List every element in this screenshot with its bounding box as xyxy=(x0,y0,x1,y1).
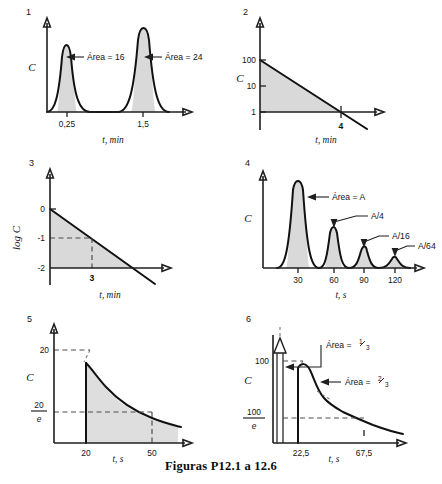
panel-3-xtick-label-3: 3 xyxy=(90,273,95,283)
panel-5-number: 5 xyxy=(27,314,32,324)
panel-1-annotation-b-label: Área = 24 xyxy=(165,52,203,62)
panel-4-annotation-4-label: A/64 xyxy=(418,241,436,251)
panel-5-ytick-denominator: e xyxy=(37,414,42,424)
panel-2-xtick-label-4: 4 xyxy=(339,121,344,131)
panel-4: 4 30 60 90 120 C t, s Área = A xyxy=(221,150,442,310)
panel-1-x-axis-label: t, min xyxy=(102,135,124,145)
panel-3-number: 3 xyxy=(29,158,34,168)
panel-6-annotation-2-arrow xyxy=(320,379,329,386)
panel-1-y-axis-label: C xyxy=(28,61,36,73)
figure-caption: Figuras P12.1 a 12.6 xyxy=(0,459,442,474)
panel-4-annotation-4-arrow xyxy=(392,248,399,257)
panel-3-ytick-label-neg2: -2 xyxy=(38,263,46,273)
panel-6-ytick-label-100: 100 xyxy=(255,356,269,366)
panel-2-ytick-label-1: 1 xyxy=(251,107,256,117)
panel-1-number: 1 xyxy=(26,7,31,17)
panel-6-ytick-numerator: 100 xyxy=(247,407,261,417)
panel-4-xtick-label-60: 60 xyxy=(329,275,339,285)
panel-3: 3 0 -1 -2 3 log C t, min xyxy=(0,150,221,310)
panel-4-annotation-1-arrow xyxy=(307,194,316,201)
panel-4-number: 4 xyxy=(245,158,250,168)
panel-4-annotation-3-label: A/16 xyxy=(392,231,410,241)
panel-4-annotation-2-label: A/4 xyxy=(371,211,384,221)
panel-4-xtick-label-120: 120 xyxy=(388,275,402,285)
panel-2-x-axis-label: t, min xyxy=(315,135,337,145)
panel-6-annotation-1-denominator: 3 xyxy=(366,344,370,351)
panel-5-ytick-label-20: 20 xyxy=(40,345,50,355)
panel-4-y-axis-label: C xyxy=(244,212,252,224)
panel-4-annotation-1-label: Área = A xyxy=(332,192,365,202)
panel-5: 5 20 20 e 20 50 C xyxy=(0,305,221,465)
panel-3-ytick-label-neg1: -1 xyxy=(38,233,46,243)
panel-2-ytick-label-10: 10 xyxy=(247,81,257,91)
panel-4-annotation-2-leader xyxy=(334,216,368,222)
panel-2: 2 100 10 1 4 C t, min xyxy=(221,0,442,150)
panel-5-dash-peak-connector xyxy=(84,350,90,362)
panel-2-number: 2 xyxy=(243,7,248,17)
panel-4-annotation-2-arrow xyxy=(331,219,338,228)
panel-5-ytick-numerator: 20 xyxy=(34,400,44,410)
panel-4-annotation-3-leader xyxy=(364,236,389,242)
panel-4-peak-2-fill xyxy=(324,227,343,268)
panel-2-ytick-label-100: 100 xyxy=(242,55,256,65)
panel-5-fill xyxy=(86,363,178,443)
panel-6-annotation-2-denominator: 3 xyxy=(385,381,389,388)
panel-3-y-axis-label: log C xyxy=(10,225,22,250)
panel-1-xtick-label-2: 1,5 xyxy=(137,119,149,129)
panel-6-impulse-arrowhead xyxy=(274,338,286,353)
panel-6-ytick-denominator: e xyxy=(252,421,257,431)
panel-6-annotation-2-prefix: Área = xyxy=(345,377,371,387)
panel-4-peak-3-fill xyxy=(355,248,374,269)
panel-6: 6 Área = 1 3 Área = xyxy=(221,305,442,465)
panel-6-annotation-1-arrow xyxy=(285,364,294,371)
panel-6-annotation-1-prefix: Área = xyxy=(326,340,352,350)
panel-1: 1 0,25 1,5 C t, min Área = 16 Área = 24 xyxy=(0,0,221,150)
panel-4-x-axis-label: t, s xyxy=(336,290,347,300)
panel-6-y-axis-label: C xyxy=(244,374,252,386)
panel-5-y-axis-label: C xyxy=(26,371,34,383)
panel-3-x-axis-label: t, min xyxy=(99,290,121,300)
panel-4-xtick-label-30: 30 xyxy=(293,275,303,285)
panel-1-xtick-label-1: 0,25 xyxy=(59,119,76,129)
panel-2-y-axis-label: C xyxy=(236,72,244,84)
panel-6-number: 6 xyxy=(246,314,251,324)
figure-sheet: 1 0,25 1,5 C t, min Área = 16 Área = 24 … xyxy=(0,0,442,484)
panel-6-annotation-1-leader xyxy=(291,345,321,367)
panel-4-xtick-label-90: 90 xyxy=(359,275,369,285)
panel-1-annotation-a-label: Área = 16 xyxy=(87,52,125,62)
panel-3-ytick-label-0: 0 xyxy=(40,204,45,214)
